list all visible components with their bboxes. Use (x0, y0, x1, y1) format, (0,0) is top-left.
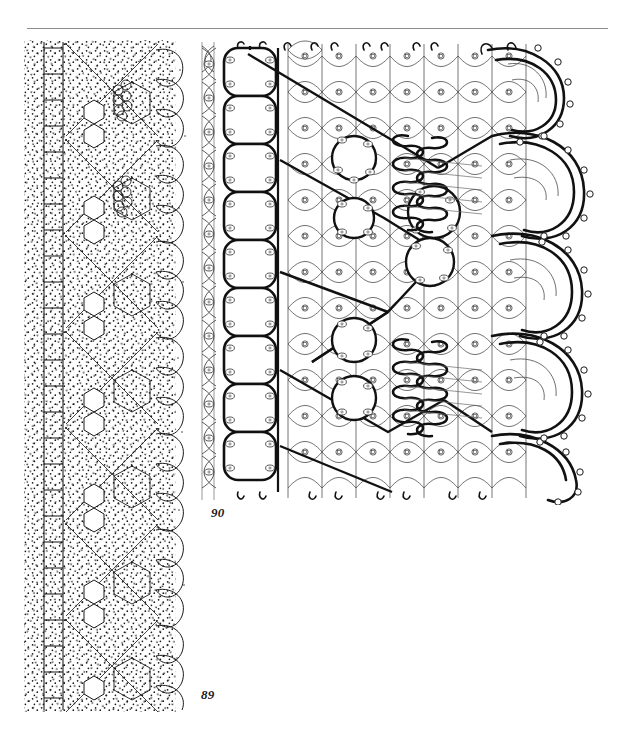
figure-90-working-diagram (192, 40, 600, 505)
figure-caption-90: 90 (211, 505, 225, 521)
page-canvas: 90 89 (0, 0, 634, 745)
figure-89-pricking (22, 40, 197, 712)
figure-caption-89: 89 (201, 687, 215, 703)
header-rule (27, 28, 608, 29)
